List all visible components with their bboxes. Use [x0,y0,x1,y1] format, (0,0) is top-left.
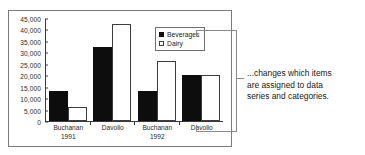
x-axis-category-label: Buchanan1991 [46,124,91,141]
bar-beverages[interactable] [93,47,112,121]
legend-item-dairy[interactable]: Dairy [159,39,200,48]
screenshot-root: 45,00040,00035,00030,00025,00020,00015,0… [0,0,365,155]
x-axis-category-label: Davolio [91,124,136,141]
y-axis-tick-label: 25,000 [20,61,45,68]
annotation-line: are assigned to data [247,80,363,92]
annotation-line: ...changes which items [247,68,363,80]
hollow-square-icon [159,41,164,46]
y-axis-tick-label: 0 [37,119,45,126]
bar-beverages[interactable] [182,75,201,121]
bar-dairy[interactable] [157,61,176,121]
y-axis-tick-label: 45,000 [20,16,45,23]
callout-anchor-axis [196,125,197,132]
callout-line-bottom [196,131,237,132]
bar-dairy[interactable] [201,75,220,121]
y-axis-tick-label: 40,000 [20,27,45,34]
legend-label-beverages: Beverages [167,30,200,39]
x-axis-category-label: Davolio [180,124,225,141]
y-axis-tick-label: 5,000 [24,107,45,114]
legend-label-dairy: Dairy [167,39,183,48]
callout-anchor-legend [196,30,197,36]
y-axis-tick-mark [45,122,48,123]
y-axis-tick-label: 10,000 [20,96,45,103]
bar-beverages[interactable] [138,91,157,121]
filled-square-icon [159,32,164,37]
bar-dairy[interactable] [112,24,131,121]
bar-dairy[interactable] [68,107,87,121]
callout-line-top [196,30,237,31]
legend-item-beverages[interactable]: Beverages [159,30,200,39]
x-axis-category-label: Buchanan1992 [135,124,180,141]
y-axis-tick-label: 35,000 [20,38,45,45]
y-axis-tick-label: 20,000 [20,73,45,80]
bar-group [90,19,134,121]
callout-line-vertical [236,30,237,132]
annotation-line: series and categories. [247,91,363,103]
bar-group [46,19,90,121]
callout-pointer-tick [237,78,244,79]
annotation-text: ...changes which itemsare assigned to da… [247,68,363,103]
y-axis-tick-label: 30,000 [20,50,45,57]
y-axis-tick-label: 15,000 [20,84,45,91]
x-axis-category-labels: Buchanan1991DavolioBuchanan1992Davolio [46,124,224,141]
bar-beverages[interactable] [49,91,68,121]
